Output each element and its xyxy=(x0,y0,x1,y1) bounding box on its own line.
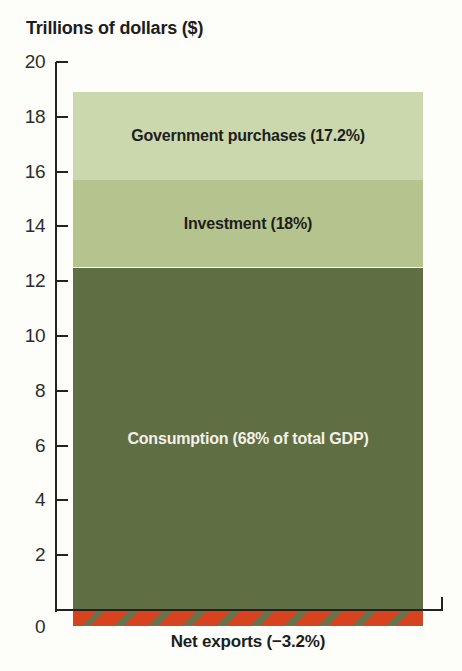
y-tick-label: 14 xyxy=(0,215,45,237)
y-tick-label: 8 xyxy=(0,380,45,402)
y-tick-label: 2 xyxy=(0,544,45,566)
y-tick-label: 20 xyxy=(0,51,45,73)
y-tick-label: 10 xyxy=(0,325,45,347)
y-tick-mark xyxy=(56,61,68,63)
segment-net-exports-hatched xyxy=(73,610,423,626)
y-tick-label: 0 xyxy=(0,616,45,638)
segment-government-purchases-label: Government purchases (17.2%) xyxy=(131,127,365,145)
y-tick-mark xyxy=(56,335,68,337)
x-axis-line xyxy=(55,609,443,611)
stacked-bar: Government purchases (17.2%) Investment … xyxy=(73,0,423,671)
y-tick-mark xyxy=(56,171,68,173)
y-tick-mark xyxy=(56,499,68,501)
segment-consumption-label: Consumption (68% of total GDP) xyxy=(127,430,368,448)
y-axis-line xyxy=(55,62,57,612)
y-tick-mark xyxy=(56,116,68,118)
segment-government-purchases: Government purchases (17.2%) xyxy=(73,92,423,180)
segment-consumption: Consumption (68% of total GDP) xyxy=(73,268,423,611)
y-tick-mark xyxy=(56,225,68,227)
gdp-components-stacked-bar-chart: Trillions of dollars ($) 024681012141618… xyxy=(0,0,462,671)
x-axis-end-tick xyxy=(441,597,443,611)
segment-investment: Investment (18%) xyxy=(73,180,423,268)
y-tick-mark xyxy=(56,445,68,447)
y-tick-label: 16 xyxy=(0,161,45,183)
y-tick-mark xyxy=(56,390,68,392)
y-tick-mark xyxy=(56,554,68,556)
y-tick-label: 18 xyxy=(0,106,45,128)
segment-investment-label: Investment (18%) xyxy=(184,215,312,233)
net-exports-label: Net exports (−3.2%) xyxy=(73,632,423,652)
y-tick-label: 4 xyxy=(0,489,45,511)
y-tick-label: 12 xyxy=(0,270,45,292)
y-tick-mark xyxy=(56,280,68,282)
y-tick-label: 6 xyxy=(0,435,45,457)
